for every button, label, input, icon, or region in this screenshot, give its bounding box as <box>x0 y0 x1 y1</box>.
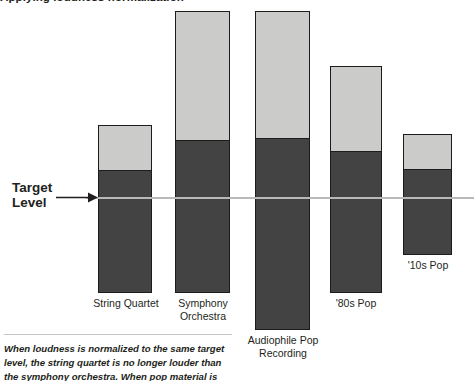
bar-0-loudness-segment <box>99 170 151 292</box>
x-axis-label-2: Audiophile Pop Recording <box>240 334 326 359</box>
target-level-line-over-bar-0 <box>98 197 152 199</box>
target-level-line-over-bar-4 <box>403 197 452 199</box>
target-level-line-over-bar-1 <box>175 197 230 199</box>
figure-caption: When loudness is normalized to the same … <box>4 342 236 381</box>
x-axis-label-3: '80s Pop <box>322 297 390 310</box>
target-level-line-over-bar-3 <box>330 197 382 199</box>
x-axis-label-1: Symphony Orchestra <box>168 297 238 322</box>
bar-4-loudness-segment <box>404 169 451 254</box>
bar-2-loudness-segment <box>256 138 309 329</box>
target-level-line-over-bar-2 <box>255 197 310 199</box>
x-axis-label-0: String Quartet <box>90 297 162 310</box>
bar-0-headroom-segment <box>99 126 151 173</box>
bar-4 <box>403 134 452 255</box>
caption-divider <box>4 334 232 335</box>
bar-0 <box>98 125 152 293</box>
target-level-label: Target Level <box>12 180 52 210</box>
arrow-right-icon <box>56 191 98 204</box>
bar-2 <box>255 11 310 330</box>
bar-3 <box>330 66 382 293</box>
bar-1-headroom-segment <box>176 12 229 143</box>
bar-3-loudness-segment <box>331 151 381 292</box>
bar-1 <box>175 11 230 293</box>
bar-3-headroom-segment <box>331 67 381 154</box>
bar-2-headroom-segment <box>256 12 309 141</box>
figure-canvas: Applying loudness normalization String Q… <box>0 0 474 381</box>
x-axis-label-4: '10s Pop <box>394 259 462 272</box>
bar-4-headroom-segment <box>404 135 451 172</box>
bar-1-loudness-segment <box>176 140 229 292</box>
